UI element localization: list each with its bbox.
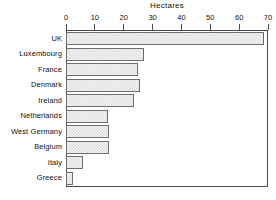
bar	[66, 32, 264, 45]
y-category-label: Greece	[0, 173, 62, 182]
y-category-label: West Germany	[0, 127, 62, 136]
x-tick-label: 40	[177, 13, 185, 22]
x-tick-label: 50	[206, 13, 214, 22]
y-category-label: Netherlands	[0, 111, 62, 120]
bar	[66, 48, 144, 61]
chart-title: Hectares	[66, 1, 268, 10]
x-tick-label: 20	[120, 13, 128, 22]
x-tick-label: 10	[91, 13, 99, 22]
bar	[66, 63, 138, 76]
y-category-label: UK	[0, 34, 62, 43]
bar	[66, 141, 109, 154]
bar	[66, 79, 140, 92]
bar	[66, 94, 134, 107]
y-category-label: Luxembourg	[0, 49, 62, 58]
x-tick-label: 30	[148, 13, 156, 22]
x-tick-label: 0	[64, 13, 68, 22]
plot-area	[66, 31, 268, 186]
axis-line-bottom	[66, 186, 268, 187]
y-axis-category-labels: UKLuxembourgFranceDenmarkIrelandNetherla…	[0, 31, 62, 186]
x-axis-tick-labels: 010203040506070	[0, 13, 276, 24]
x-tick-label: 70	[264, 13, 272, 22]
y-category-label: Ireland	[0, 96, 62, 105]
bar	[66, 110, 108, 123]
y-category-label: Denmark	[0, 80, 62, 89]
y-category-label: Belgium	[0, 142, 62, 151]
y-category-label: Italy	[0, 158, 62, 167]
bar	[66, 125, 109, 138]
x-tick-label: 60	[235, 13, 243, 22]
bar	[66, 156, 83, 169]
bar-chart: Hectares 010203040506070 UKLuxembourgFra…	[0, 0, 276, 200]
bar	[66, 172, 73, 185]
y-category-label: France	[0, 65, 62, 74]
